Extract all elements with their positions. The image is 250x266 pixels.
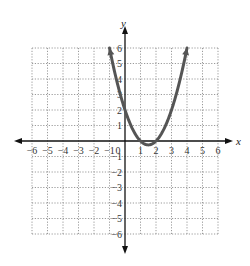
y-tick-label: 2 <box>117 105 122 116</box>
y-tick-label: −6 <box>111 229 122 240</box>
x-axis-left-arrow-icon <box>14 138 22 144</box>
y-tick-label: 5 <box>117 58 122 69</box>
y-tick-label: 1 <box>117 120 122 131</box>
y-tick-label: −4 <box>111 198 122 209</box>
y-axis-label: y <box>120 17 126 29</box>
x-axis-right-arrow-icon <box>225 138 233 144</box>
y-tick-label: −5 <box>111 213 122 224</box>
x-axis-label: x <box>235 135 241 147</box>
x-tick-label: −4 <box>58 145 69 156</box>
y-axis-down-arrow-icon <box>122 246 128 254</box>
x-tick-label: 5 <box>200 145 205 156</box>
x-tick-label: 1 <box>138 145 143 156</box>
x-tick-label: 2 <box>154 145 159 156</box>
x-tick-label: −3 <box>73 145 84 156</box>
coordinate-plane: −6−5−4−3−2−10123456−6−5−4−3−2−1123456 x … <box>0 0 250 266</box>
y-tick-label: −3 <box>111 182 122 193</box>
x-tick-label: −2 <box>89 145 100 156</box>
y-tick-label: −2 <box>111 167 122 178</box>
x-tick-label: −6 <box>27 145 38 156</box>
y-tick-label: 6 <box>117 43 122 54</box>
x-tick-label: 6 <box>216 145 221 156</box>
x-tick-label: −5 <box>42 145 53 156</box>
axes <box>14 26 233 254</box>
x-tick-label: 3 <box>169 145 174 156</box>
y-tick-label: −1 <box>111 151 122 162</box>
x-tick-label: 4 <box>185 145 190 156</box>
